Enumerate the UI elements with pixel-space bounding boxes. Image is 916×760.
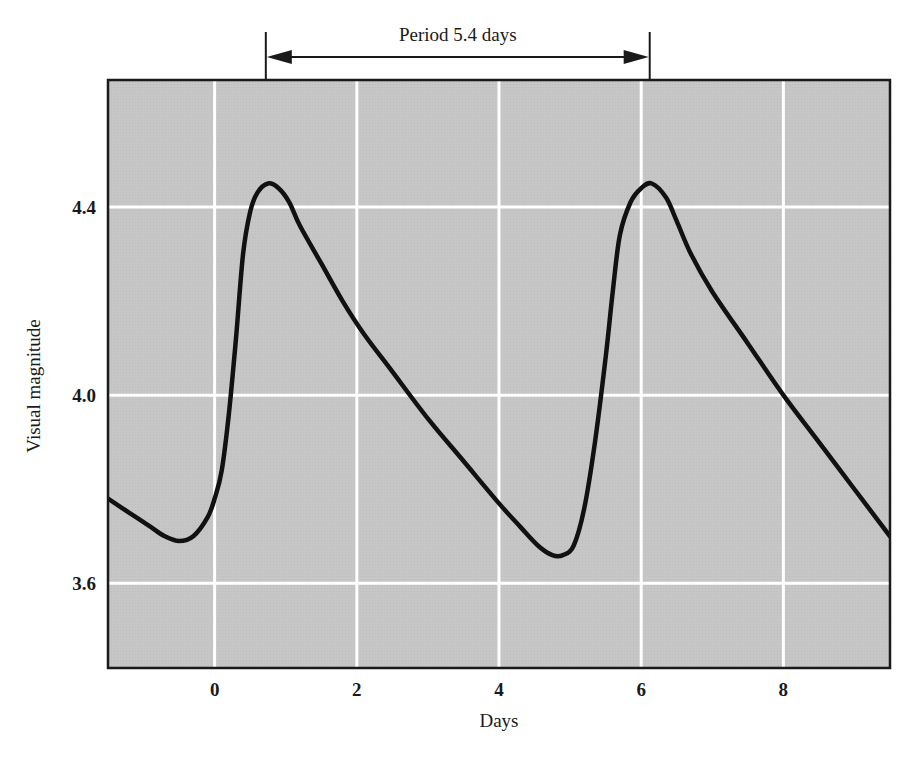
arrow-right-icon	[624, 50, 649, 64]
period-annotation: Period 5.4 days	[266, 24, 650, 80]
x-tick-label: 8	[779, 679, 789, 700]
y-tick-label: 4.4	[72, 197, 96, 218]
x-axis-ticks: 02468	[210, 679, 788, 700]
y-axis-label: Visual magnitude	[23, 319, 44, 452]
x-axis-label: Days	[479, 710, 518, 731]
light-curve-chart: 02468 3.64.04.4 Period 5.4 days Days Vis…	[0, 0, 916, 760]
y-axis-ticks: 3.64.04.4	[72, 197, 96, 594]
x-tick-label: 4	[494, 679, 504, 700]
x-tick-label: 2	[352, 679, 362, 700]
y-tick-label: 4.0	[72, 385, 96, 406]
arrow-left-icon	[267, 50, 292, 64]
period-label: Period 5.4 days	[399, 24, 517, 45]
x-tick-label: 0	[210, 679, 220, 700]
x-tick-label: 6	[636, 679, 646, 700]
y-tick-label: 3.6	[72, 573, 96, 594]
